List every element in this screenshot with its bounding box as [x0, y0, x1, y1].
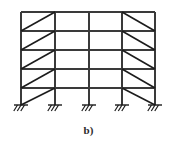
supports-group [14, 105, 162, 111]
support-5-hatch-2 [151, 105, 155, 111]
bay-4-brace-storey-3 [122, 50, 155, 69]
bay-1-brace-storey-3 [21, 50, 55, 69]
support-3-hatch-2 [85, 105, 89, 111]
bay-1-brace-storey-2 [21, 31, 55, 50]
support-4-hatch-1 [115, 105, 119, 111]
bay-4-brace-storey-1 [122, 12, 155, 31]
support-1-hatch-3 [21, 105, 25, 111]
bay-4-brace-storey-5 [122, 88, 155, 105]
support-5-fixed [148, 105, 162, 111]
support-2-fixed [48, 105, 62, 111]
support-5-hatch-3 [155, 105, 159, 111]
support-5-hatch-1 [148, 105, 152, 111]
support-1-fixed [14, 105, 28, 111]
support-4-hatch-2 [118, 105, 122, 111]
figure-caption: b) [0, 124, 177, 136]
support-4-hatch-3 [122, 105, 126, 111]
bay-1-brace-storey-4 [21, 69, 55, 88]
bay-1-brace-storey-5 [21, 88, 55, 105]
bay-4-brace-storey-2 [122, 31, 155, 50]
support-2-hatch-2 [51, 105, 55, 111]
support-3-hatch-1 [82, 105, 86, 111]
support-4-fixed [115, 105, 129, 111]
bay-4-brace-storey-4 [122, 69, 155, 88]
support-2-hatch-3 [55, 105, 59, 111]
support-1-hatch-2 [17, 105, 21, 111]
support-3-hatch-3 [89, 105, 93, 111]
bay-1-brace-storey-1 [21, 12, 55, 31]
support-1-hatch-1 [14, 105, 18, 111]
support-2-hatch-1 [48, 105, 52, 111]
structural-frame-figure: b) [0, 0, 177, 146]
support-3-fixed [82, 105, 96, 111]
